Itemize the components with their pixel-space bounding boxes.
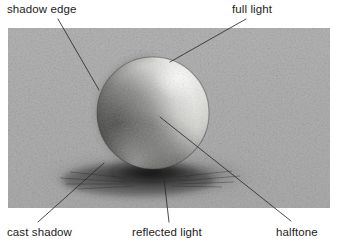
callout-leaders [0,0,337,243]
leader-full-light [170,19,246,62]
leader-reflected-light [163,170,169,222]
callout-label-shadow-edge: shadow edge [7,3,77,16]
sphere-shading-figure: shadow edge full light cast shadow refle… [0,0,337,243]
callout-label-cast-shadow: cast shadow [7,226,72,239]
leader-shadow-edge [58,19,99,90]
callout-label-halftone: halftone [276,226,318,239]
callout-label-full-light: full light [232,3,272,16]
leader-halftone [160,117,291,221]
leader-cast-shadow [38,163,104,222]
callout-label-reflected-light: reflected light [132,226,202,239]
